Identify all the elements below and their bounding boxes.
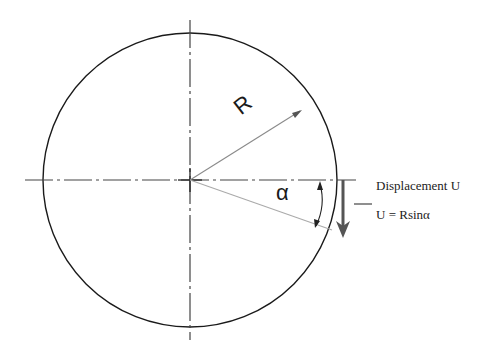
radius-line bbox=[190, 111, 300, 180]
angle-arc bbox=[316, 184, 322, 226]
displacement-label: Displacement U bbox=[376, 178, 460, 194]
angle-arrow-bottom bbox=[314, 219, 320, 228]
angle-label: α bbox=[276, 180, 289, 206]
radius-arrowhead bbox=[292, 110, 302, 118]
equation-label: U = Rsinα bbox=[376, 207, 430, 223]
rotated-radius-line bbox=[190, 180, 332, 230]
angle-arrow-top bbox=[317, 181, 323, 190]
